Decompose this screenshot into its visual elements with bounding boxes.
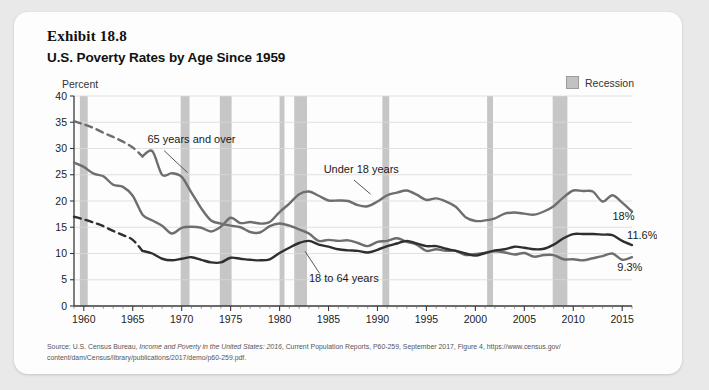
gridlines bbox=[74, 96, 632, 280]
series-end-label: 11.6% bbox=[627, 229, 657, 241]
source-note: Source: U.S. Census Bureau, Income and P… bbox=[47, 342, 657, 363]
x-axis-tick-label: 1970 bbox=[170, 313, 194, 325]
source-line2: content/dam/Census/library/publications/… bbox=[47, 354, 246, 361]
x-axis-tick-label: 1995 bbox=[415, 313, 439, 325]
y-axis-tick-label: 5 bbox=[61, 273, 67, 285]
y-axis-tick-label: 15 bbox=[55, 221, 67, 233]
x-axis-tick-label: 1960 bbox=[72, 313, 96, 325]
x-axis-tick-label: 2005 bbox=[513, 313, 537, 325]
y-axis-tick-label: 20 bbox=[55, 195, 67, 207]
x-axis-tick-label: 1990 bbox=[366, 313, 390, 325]
y-axis-tick-label: 0 bbox=[61, 300, 67, 312]
series-inline-label: 65 years and over bbox=[147, 133, 235, 145]
x-axis-tick-label: 1980 bbox=[268, 313, 292, 325]
source-line1-prefix: Source: U.S. Census Bureau, bbox=[47, 343, 139, 350]
x-axis-tick-label: 1965 bbox=[121, 313, 145, 325]
exhibit-number: Exhibit 18.8 bbox=[47, 28, 127, 45]
y-axis-tick-label: 35 bbox=[55, 116, 67, 128]
x-axis-tick-label: 2010 bbox=[562, 313, 586, 325]
series-end-label: 9.3% bbox=[617, 261, 642, 273]
series-inline-label: Under 18 years bbox=[324, 163, 400, 175]
source-publication-title: Income and Poverty in the United States:… bbox=[139, 343, 282, 350]
poverty-rates-line-chart: 0510152025303540196019651970197519801985… bbox=[47, 88, 657, 334]
x-axis-tick-label: 2000 bbox=[464, 313, 488, 325]
y-axis-tick-label: 30 bbox=[55, 142, 67, 154]
y-axis-tick-label: 25 bbox=[55, 168, 67, 180]
axis-ticks: 0510152025303540196019651970197519801985… bbox=[55, 90, 634, 325]
series-end-label: 18% bbox=[612, 210, 634, 222]
source-line1-suffix: , Current Population Reports, P60-259, S… bbox=[282, 343, 561, 350]
y-axis-tick-label: 40 bbox=[55, 90, 67, 102]
x-axis-tick-label: 1975 bbox=[219, 313, 243, 325]
x-axis-tick-label: 1985 bbox=[317, 313, 341, 325]
y-axis-tick-label: 10 bbox=[55, 247, 67, 259]
label-leader-line bbox=[354, 180, 371, 194]
label-leader-line bbox=[305, 251, 320, 273]
series-inline-label: 18 to 64 years bbox=[309, 272, 379, 284]
page-title: U.S. Poverty Rates by Age Since 1959 bbox=[47, 50, 285, 65]
legend-item-recession: Recession bbox=[585, 77, 634, 89]
chart-plot-area: 0510152025303540196019651970197519801985… bbox=[47, 88, 657, 334]
x-axis-tick-label: 2015 bbox=[611, 313, 635, 325]
exhibit-card: Exhibit 18.8 U.S. Poverty Rates by Age S… bbox=[14, 12, 682, 374]
